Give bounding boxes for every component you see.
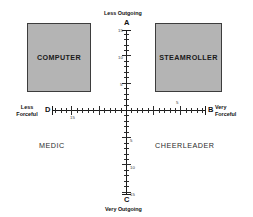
x-tick-label-15-left: 15 <box>70 116 75 120</box>
tick-mark <box>66 108 67 113</box>
tick-mark <box>88 108 89 113</box>
caption-less-forceful-line2: Forceful <box>16 111 37 117</box>
tick-mark <box>180 106 181 115</box>
y-tick-label-15-up: 15 <box>118 29 123 33</box>
quadrant-label-medic: MEDIC <box>39 141 65 150</box>
tick-mark <box>124 154 129 155</box>
social-style-grid-diagram: 15 10 5 5 10 15 15 5 A C D B Less Outgoi… <box>0 0 253 217</box>
caption-very-forceful-line1: Very <box>215 104 226 110</box>
tick-mark <box>124 159 129 160</box>
quadrant-box-computer[interactable]: COMPUTER <box>27 23 91 92</box>
pole-label-c: C <box>124 196 129 204</box>
y-tick-label-10-down: 10 <box>130 166 135 170</box>
y-tick-label-15-down: 15 <box>130 193 135 197</box>
tick-mark <box>124 50 129 51</box>
quadrant-box-steamroller-label: STEAMROLLER <box>159 53 218 62</box>
y-tick-label-5-up: 5 <box>120 83 123 87</box>
tick-mark <box>124 126 129 127</box>
tick-mark <box>115 108 116 113</box>
caption-less-forceful: Less Forceful <box>11 104 43 118</box>
pole-label-a: A <box>124 19 129 27</box>
tick-mark <box>104 108 105 113</box>
x-tick-label-5-right: 5 <box>176 101 179 105</box>
tick-mark <box>124 121 129 122</box>
tick-mark <box>124 88 129 89</box>
caption-less-forceful-line1: Less <box>21 104 33 110</box>
tick-mark <box>186 108 187 113</box>
tick-mark <box>153 106 154 115</box>
horizontal-axis-line <box>52 110 205 111</box>
tick-mark <box>202 108 203 113</box>
tick-mark <box>124 45 129 46</box>
axis-endcap-left <box>52 106 53 115</box>
tick-mark <box>71 106 72 115</box>
tick-mark <box>61 108 62 113</box>
caption-less-outgoing: Less Outgoing <box>104 10 142 17</box>
tick-mark <box>124 115 129 116</box>
tick-mark <box>110 108 111 113</box>
tick-mark <box>122 55 131 56</box>
y-tick-label-5-down: 5 <box>130 139 133 143</box>
tick-mark <box>99 106 100 115</box>
tick-mark <box>131 108 132 113</box>
axis-endcap-right <box>205 106 206 115</box>
tick-mark <box>124 148 129 149</box>
quadrant-label-cheerleader: CHEERLEADER <box>155 141 214 150</box>
tick-mark <box>124 170 129 171</box>
tick-mark <box>191 108 192 113</box>
pole-label-d: D <box>45 106 50 114</box>
tick-mark <box>124 94 129 95</box>
tick-mark <box>124 77 129 78</box>
tick-mark <box>175 108 176 113</box>
tick-mark <box>55 108 56 113</box>
tick-mark <box>159 108 160 113</box>
caption-very-outgoing: Very Outgoing <box>105 206 142 213</box>
tick-mark <box>124 99 129 100</box>
tick-mark <box>137 108 138 113</box>
tick-mark <box>124 61 129 62</box>
tick-mark <box>148 108 149 113</box>
tick-mark <box>164 108 165 113</box>
tick-mark <box>124 143 129 144</box>
tick-mark <box>121 108 122 113</box>
pole-label-b: B <box>208 106 213 114</box>
tick-mark <box>170 108 171 113</box>
tick-mark <box>124 186 129 187</box>
tick-mark <box>124 105 129 106</box>
y-tick-label-10-up: 10 <box>118 56 123 60</box>
tick-mark <box>124 132 129 133</box>
tick-mark <box>122 83 131 84</box>
tick-mark <box>124 34 129 35</box>
tick-mark <box>124 175 129 176</box>
axis-endcap-top <box>122 30 131 31</box>
quadrant-box-computer-label: COMPUTER <box>37 53 81 62</box>
tick-mark <box>124 39 129 40</box>
tick-mark <box>82 108 83 113</box>
tick-mark <box>77 108 78 113</box>
tick-mark <box>124 181 129 182</box>
caption-very-forceful: Very Forceful <box>215 104 247 118</box>
tick-mark <box>124 66 129 67</box>
tick-mark <box>197 108 198 113</box>
tick-mark <box>124 72 129 73</box>
quadrant-box-steamroller[interactable]: STEAMROLLER <box>155 23 222 92</box>
caption-very-forceful-line2: Forceful <box>215 111 236 117</box>
tick-mark <box>93 108 94 113</box>
tick-mark <box>142 108 143 113</box>
